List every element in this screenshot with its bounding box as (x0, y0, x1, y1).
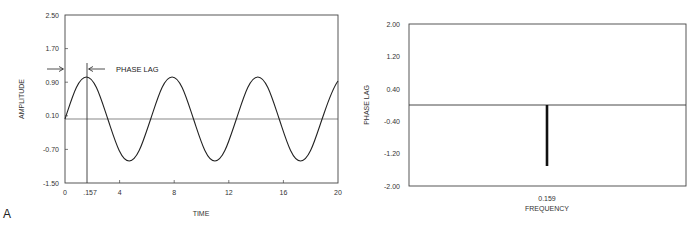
y-tick-label: 0.40 (386, 86, 400, 93)
phase-lag-annotation: PHASE LAG (116, 65, 159, 74)
y-tick-label: -1.20 (384, 150, 400, 157)
y-axis-title: PHASE LAG (363, 85, 370, 125)
y-tick-labels: 2.50 1.70 0.90 0.10 -0.70 -1.50 (43, 12, 59, 187)
y-tick-label: -0.40 (384, 118, 400, 125)
y-tick-label: -0.70 (43, 146, 59, 153)
y-tick-label: 0.10 (45, 112, 59, 119)
phase-lag-arrows (47, 67, 105, 72)
plot-frame (65, 15, 338, 183)
x-tick-label: 16 (280, 189, 288, 196)
y-tick-labels: 2.00 1.20 0.40 -0.40 -1.20 -2.00 (384, 21, 400, 190)
y-tick-label: -1.50 (43, 180, 59, 187)
y-tick-label: 2.00 (386, 21, 400, 28)
y-axis-title: AMPLITUDE (18, 79, 25, 119)
x-axis-title: TIME (193, 210, 210, 217)
x-tick-label: 20 (334, 189, 342, 196)
figure: 2.50 1.70 0.90 0.10 -0.70 -1.50 0 .157 4… (0, 0, 695, 227)
x-tick-label: 4 (118, 189, 122, 196)
phase-tick-label: .157 (83, 189, 97, 196)
y-tick-label: 1.70 (45, 45, 59, 52)
amplitude-time-chart: 2.50 1.70 0.90 0.10 -0.70 -1.50 0 .157 4… (3, 12, 342, 222)
panel-label: A (3, 207, 11, 221)
x-tick-label: 12 (225, 189, 233, 196)
x-tick-label: 0.159 (538, 195, 556, 202)
x-tick-label: 8 (172, 189, 176, 196)
phase-lag-frequency-chart: 2.00 1.20 0.40 -0.40 -1.20 -2.00 0.159 F… (363, 21, 686, 214)
y-tick-label: 2.50 (45, 12, 59, 19)
y-tick-label: 1.20 (386, 53, 400, 60)
y-tick-label: -2.00 (384, 183, 400, 190)
y-tick-label: 0.90 (45, 79, 59, 86)
x-tick-labels: 0 .157 4 8 12 16 20 (63, 189, 342, 196)
x-axis-title: FREQUENCY (525, 205, 569, 213)
x-tick-label: 0 (63, 189, 67, 196)
